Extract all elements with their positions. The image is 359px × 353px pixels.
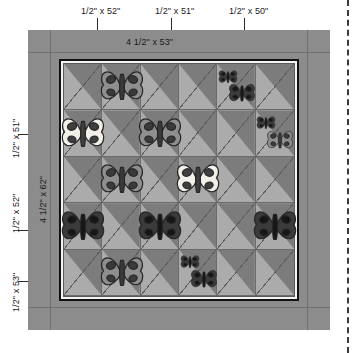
- block-diagonal-seam: [256, 203, 294, 248]
- side-border-label: 4 1/2" x 62": [38, 176, 48, 223]
- top-label-2: 1/2" x 50": [229, 6, 268, 16]
- quilt-block-r4-c3: [141, 203, 179, 249]
- quilt-block-r4-c2: [102, 203, 140, 249]
- quilt-block-r5-c3: [141, 250, 179, 296]
- quilt-block-r3-c3: [141, 157, 179, 203]
- block-diagonal-seam: [141, 157, 178, 202]
- quilt-block-r4-c4: [179, 203, 217, 249]
- page-cut-dashed-line: [347, 0, 349, 353]
- block-diagonal-seam: [102, 250, 139, 295]
- quilt-block-r1-c4: [179, 64, 217, 110]
- block-diagonal-seam: [256, 110, 294, 155]
- block-diagonal-seam: [64, 203, 101, 248]
- quilt-block-r3-c5: [217, 157, 255, 203]
- quilt-block-r5-c4: [179, 250, 217, 296]
- block-diagonal-seam: [102, 157, 139, 202]
- quilt-block-r4-c5: [217, 203, 255, 249]
- border-seam-right: [307, 30, 308, 330]
- border-seam-top: [28, 52, 330, 53]
- block-diagonal-seam: [217, 64, 254, 109]
- quilt-diagram-page: 1/2" x 52" 1/2" x 51" 1/2" x 50" 1/2" x …: [0, 0, 359, 353]
- block-diagonal-seam: [64, 64, 101, 109]
- block-diagonal-seam: [64, 157, 101, 202]
- block-diagonal-seam: [179, 110, 216, 155]
- top-label-1: 1/2" x 51": [155, 6, 194, 16]
- block-diagonal-seam: [179, 203, 216, 248]
- left-label-2: 1/2" x 53": [11, 273, 21, 312]
- border-seam-left: [50, 30, 51, 330]
- quilt-block-r3-c6: [256, 157, 294, 203]
- border-seam-bottom: [28, 307, 330, 308]
- quilt-block-r1-c5: [217, 64, 255, 110]
- quilt-block-grid: [63, 63, 295, 297]
- quilt-block-r5-c1: [64, 250, 102, 296]
- block-diagonal-seam: [256, 157, 294, 202]
- quilt-block-r1-c2: [102, 64, 140, 110]
- quilt-block-r3-c4: [179, 157, 217, 203]
- quilt-block-r3-c1: [64, 157, 102, 203]
- left-label-1: 1/2" x 52": [11, 194, 21, 233]
- block-diagonal-seam: [102, 110, 139, 155]
- block-diagonal-seam: [179, 250, 216, 295]
- quilt-outer-border: 4 1/2" x 53" 4 1/2" x 62": [28, 30, 330, 330]
- block-diagonal-seam: [217, 203, 254, 248]
- top-label-0: 1/2" x 52": [81, 6, 120, 16]
- block-diagonal-seam: [217, 250, 254, 295]
- block-diagonal-seam: [102, 203, 139, 248]
- quilt-block-r2-c5: [217, 110, 255, 156]
- top-border-label: 4 1/2" x 53": [126, 37, 173, 47]
- block-diagonal-seam: [141, 64, 178, 109]
- block-diagonal-seam: [217, 110, 254, 155]
- left-label-0: 1/2" x 51": [11, 119, 21, 158]
- block-diagonal-seam: [141, 250, 178, 295]
- quilt-block-r4-c1: [64, 203, 102, 249]
- quilt-inner-frame-highlight: [61, 61, 297, 299]
- quilt-block-r2-c6: [256, 110, 294, 156]
- quilt-block-r2-c4: [179, 110, 217, 156]
- block-diagonal-seam: [179, 157, 216, 202]
- quilt-block-r2-c2: [102, 110, 140, 156]
- quilt-block-r2-c1: [64, 110, 102, 156]
- quilt-block-r5-c2: [102, 250, 140, 296]
- block-diagonal-seam: [256, 64, 294, 109]
- quilt-block-r2-c3: [141, 110, 179, 156]
- quilt-inner-frame: [59, 59, 299, 301]
- block-diagonal-seam: [256, 250, 294, 295]
- block-diagonal-seam: [102, 64, 139, 109]
- quilt-block-r1-c6: [256, 64, 294, 110]
- block-diagonal-seam: [141, 203, 178, 248]
- block-diagonal-seam: [217, 157, 254, 202]
- block-diagonal-seam: [179, 64, 216, 109]
- block-diagonal-seam: [64, 250, 101, 295]
- quilt-block-r3-c2: [102, 157, 140, 203]
- quilt-block-r4-c6: [256, 203, 294, 249]
- quilt-block-r5-c6: [256, 250, 294, 296]
- block-diagonal-seam: [141, 110, 178, 155]
- quilt-block-r1-c3: [141, 64, 179, 110]
- quilt-block-r1-c1: [64, 64, 102, 110]
- quilt-block-r5-c5: [217, 250, 255, 296]
- block-diagonal-seam: [64, 110, 101, 155]
